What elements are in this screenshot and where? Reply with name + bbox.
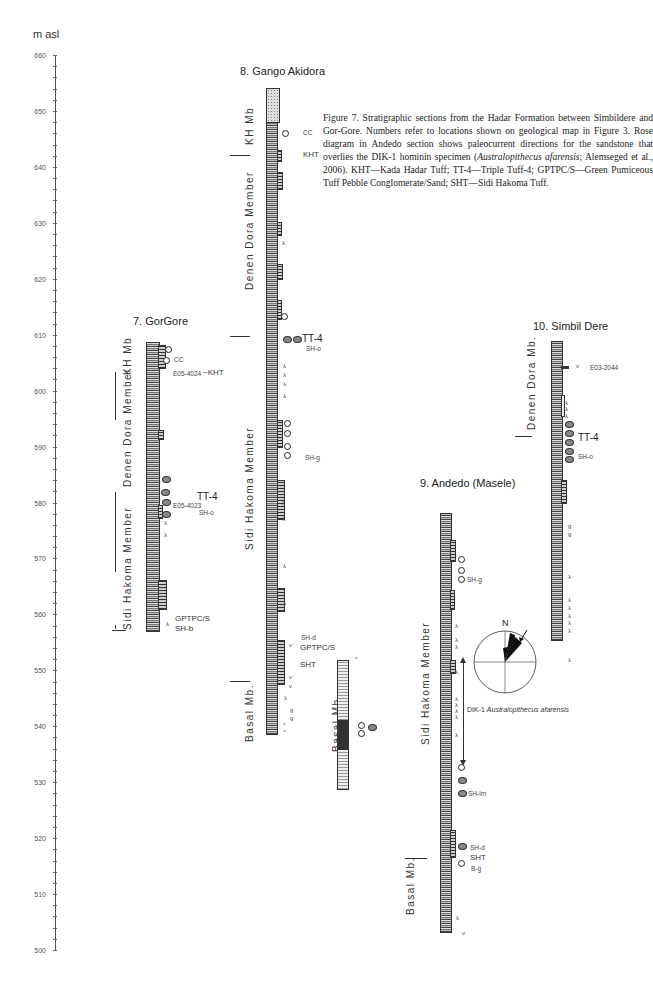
axis-tick-label: 620: [28, 275, 46, 282]
label-sh-d: SH-d: [301, 634, 316, 641]
axis-tick: [53, 536, 57, 537]
axis-tick: [53, 145, 57, 146]
section-title-gorgore: 7. GorGore: [133, 315, 188, 327]
axis-tick: [53, 816, 57, 817]
axis-tick: [53, 458, 57, 459]
axis-tick: [53, 558, 57, 559]
axis-tick: [53, 894, 57, 895]
tuff-label-kht: KHT: [303, 150, 319, 159]
axis-tick: [53, 693, 57, 694]
label-sh-b: SH-b: [175, 624, 193, 633]
member-divider: [230, 681, 250, 682]
axis-tick: [53, 682, 57, 683]
axis-tick: [53, 771, 57, 772]
lambda-symbol: λ: [568, 574, 571, 580]
tuff-icon: [565, 421, 574, 428]
axis-tick-label: 650: [28, 107, 46, 114]
bed: [277, 420, 283, 448]
tuff-icon: [458, 777, 467, 784]
lambda-symbol: λ: [455, 732, 458, 738]
lambda-symbol: λ: [565, 406, 568, 412]
axis-tick: [53, 335, 57, 336]
nodule-icon: [165, 346, 172, 353]
lambda-symbol: λ: [568, 605, 571, 611]
member-label-sidi-hakoma: Sidi Hakoma Member: [122, 507, 133, 630]
lambda-symbol: λ: [283, 393, 286, 399]
bed: [277, 172, 283, 190]
axis-tick: [53, 637, 57, 638]
axis-tick: [53, 838, 57, 839]
axis-tick-label: 580: [28, 499, 46, 506]
caret-symbol: ^: [283, 722, 286, 728]
label-cc: CC: [303, 129, 312, 136]
axis-tick: [53, 547, 57, 548]
axis-tick: [53, 301, 57, 302]
member-label-denen-dora: Denen Dora Member: [122, 368, 133, 487]
nodule-icon: [458, 576, 465, 583]
axis-tick: [53, 491, 57, 492]
section-title-andedo: 9. Andedo (Masele): [420, 477, 515, 489]
bed: [561, 480, 567, 504]
tuff-icon: [293, 336, 302, 343]
axis-tick-label: 660: [28, 52, 46, 59]
nodule-icon: [163, 357, 170, 364]
member-label-basal: Basal Mb.: [244, 684, 255, 742]
axis-tick: [53, 905, 57, 906]
v-symbol: v: [289, 674, 292, 680]
lambda-symbol: λ: [455, 669, 458, 675]
axis-tick: [53, 805, 57, 806]
axis-tick: [53, 793, 57, 794]
dik1-range-arrow: [463, 662, 464, 762]
axis-tick-label: 500: [28, 947, 46, 954]
axis-tick: [53, 245, 57, 246]
axis-tick-label: 590: [28, 443, 46, 450]
axis-tick: [53, 670, 57, 671]
caption-species: Australopithecus afarensis: [477, 152, 579, 162]
v-symbol: v: [576, 363, 579, 369]
axis-tick: [53, 279, 57, 280]
axis-tick-label: 530: [28, 779, 46, 786]
axis-tick: [53, 178, 57, 179]
lambda-symbol: λ: [164, 532, 167, 538]
nodule-icon: [284, 443, 291, 450]
lambda-symbol: λ: [282, 240, 285, 246]
lambda-symbol: λ: [568, 657, 571, 663]
tuff-icon: [458, 790, 467, 797]
axis-tick: [53, 760, 57, 761]
axis-tick: [53, 368, 57, 369]
member-label-sidi-hakoma: Sidi Hakoma Member: [244, 427, 255, 550]
label-sh-lm: SH-lm: [468, 790, 486, 797]
nodule-icon: [358, 730, 365, 737]
sample-id: E05-4024: [173, 370, 201, 377]
axis-tick: [53, 111, 57, 112]
axis-tick: [53, 357, 57, 358]
bed: [561, 366, 569, 369]
lambda-symbol: λ: [284, 695, 287, 701]
axis-tick: [53, 715, 57, 716]
label-sh-d: SH-d: [470, 844, 485, 851]
tuff-icon: [161, 489, 170, 496]
dik1-species: Australopithecus afarensis: [487, 706, 569, 713]
axis-tick-label: 630: [28, 219, 46, 226]
rose-diagram: N: [470, 616, 540, 706]
axis-tick: [53, 514, 57, 515]
lambda-symbol: λ: [455, 623, 458, 629]
tuff-label-tt4: TT-4: [197, 491, 218, 502]
axis-tick: [53, 156, 57, 157]
lambda-symbol: λ: [164, 520, 167, 526]
tuff-label-tt4: TT-4: [578, 432, 599, 443]
label-sh-g: SH-g: [467, 576, 482, 583]
axis-tick: [53, 424, 57, 425]
axis-tick: [53, 77, 57, 78]
nodule-icon: [458, 764, 465, 771]
lambda-symbol: λ: [283, 381, 286, 387]
sample-id: E03-2044: [590, 364, 618, 371]
member-label-sidi-hakoma: Sidi Hakoma Member: [420, 622, 431, 745]
axis-tick: [53, 234, 57, 235]
bed: [450, 540, 456, 562]
axis-tick: [53, 525, 57, 526]
north-label: N: [502, 618, 509, 628]
axis-tick: [53, 167, 57, 168]
lambda-symbol: λ: [565, 413, 568, 419]
stratigraphic-column-andedo: [440, 513, 452, 933]
